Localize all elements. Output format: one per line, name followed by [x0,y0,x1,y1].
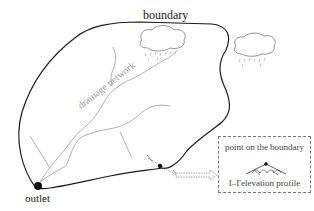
inset-caption: I–I'elevation profile [219,178,310,188]
channel-upper-bank [40,50,178,182]
basin-boundary [19,22,230,189]
boundary-label: boundary [143,9,188,21]
inset-title: point on the boundary [219,142,310,152]
rain-cloud-outside [234,33,275,67]
tributary-left [30,136,50,168]
outlet-point [34,182,42,190]
section-line [148,158,178,176]
profile-hatching [252,170,281,173]
boundary-point [158,164,162,168]
elevation-profile-sketch [244,159,288,177]
profile-arrow [176,170,217,180]
tributary-mid [120,132,132,158]
profile-point [264,162,268,166]
drainage-network [30,47,178,182]
cloud-icon [234,33,275,56]
rain-drops [239,58,265,67]
elevation-profile-inset: point on the boundary I–I'elevation prof… [218,136,311,193]
rain-cloud-inside [140,26,185,62]
channel-lower-bank [40,105,170,182]
cloud-icon [140,26,185,52]
outlet-label: outlet [25,193,50,204]
section-tick-start [147,155,152,161]
